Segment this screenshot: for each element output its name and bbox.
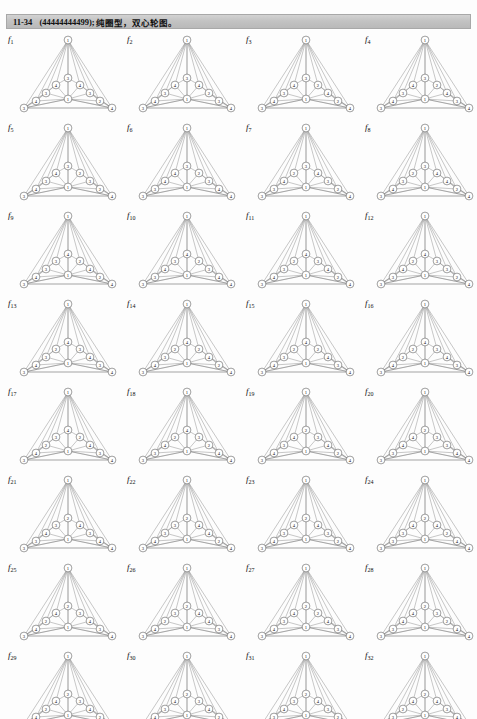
figure-cell-f15: f1514223443134 — [238, 294, 357, 382]
wheel-graph-f31: 12344332134 — [258, 647, 354, 719]
wheel-graph-f30: 12433442134 — [139, 647, 235, 719]
wheel-graph-f7: 13244332134 — [258, 119, 354, 205]
figure-label-f20: f20 — [365, 386, 374, 396]
figure-cell-f3: f313423442134 — [238, 30, 357, 118]
figure-cell-f13: f1314233443134 — [0, 294, 119, 382]
figure-cell-f12: f1214234332134 — [357, 206, 476, 294]
wheel-graph-f24: 12443234134 — [377, 471, 473, 557]
wheel-graph-f3: 13423442134 — [258, 31, 354, 117]
figure-cell-f29: f2912432442134 — [0, 646, 119, 719]
wheel-graph-f28: 12434234134 — [377, 559, 473, 645]
wheel-graph-f27: 12423443134 — [258, 559, 354, 645]
figure-label-f30: f30 — [127, 650, 136, 660]
figure-cell-f6: f613424334134 — [119, 118, 238, 206]
figure-cell-f19: f1912433442134 — [238, 382, 357, 470]
figure-label-f9: f9 — [8, 210, 14, 220]
section-description: 纯圈型，双心轮图。 — [96, 16, 177, 28]
figure-cell-f27: f2712423443134 — [238, 558, 357, 646]
figure-label-f25: f25 — [8, 562, 17, 572]
figure-label-f10: f10 — [127, 210, 136, 220]
wheel-graph-f11: 14233442134 — [258, 207, 354, 293]
figure-cell-f7: f713244332134 — [238, 118, 357, 206]
figure-label-f7: f7 — [246, 122, 252, 132]
wheel-graph-f15: 14223443134 — [258, 295, 354, 381]
figure-cell-f20: f2012434334134 — [357, 382, 476, 470]
wheel-graph-f10: 14324334134 — [139, 207, 235, 293]
wheel-graph-f17: 14322443134 — [20, 383, 116, 469]
section-header-bar: 11-34 (44444444499); 纯圈型，双心轮图。 — [6, 14, 471, 29]
wheel-graph-f32: 12442334134 — [377, 647, 473, 719]
figure-label-f28: f28 — [365, 562, 374, 572]
figure-label-f8: f8 — [365, 122, 371, 132]
wheel-graph-f22: 12343442134 — [139, 471, 235, 557]
section-code: (44444444499); — [39, 17, 94, 27]
wheel-graph-f1: 13443342134 — [20, 31, 116, 117]
figure-label-f29: f29 — [8, 650, 17, 660]
figure-cell-f1: f113443342134 — [0, 30, 119, 118]
wheel-graph-f5: 13423342134 — [20, 119, 116, 205]
figure-cell-f31: f3112344332134 — [238, 646, 357, 719]
figure-cell-f4: f413423443134 — [357, 30, 476, 118]
figure-label-f19: f19 — [246, 386, 255, 396]
figure-cell-f30: f3012433442134 — [119, 646, 238, 719]
wheel-graph-f4: 13423443134 — [377, 31, 473, 117]
figure-label-f3: f3 — [246, 34, 252, 44]
figure-cell-f5: f513423342134 — [0, 118, 119, 206]
wheel-graph-f2: 13443243134 — [139, 31, 235, 117]
wheel-graph-f14: 14223442134 — [139, 295, 235, 381]
figure-label-f24: f24 — [365, 474, 374, 484]
figure-cell-f10: f1014324334134 — [119, 206, 238, 294]
figure-cell-f17: f1714322443134 — [0, 382, 119, 470]
figure-label-f23: f23 — [246, 474, 255, 484]
figure-cell-f21: f2112344334134 — [0, 470, 119, 558]
figure-label-f2: f2 — [127, 34, 133, 44]
wheel-graph-f9: 14323442134 — [20, 207, 116, 293]
figure-cell-f25: f2512432443134 — [0, 558, 119, 646]
wheel-graph-f25: 12432443134 — [20, 559, 116, 645]
figure-label-f12: f12 — [365, 210, 374, 220]
figure-cell-f8: f813243442134 — [357, 118, 476, 206]
figure-label-f26: f26 — [127, 562, 136, 572]
figure-label-f18: f18 — [127, 386, 136, 396]
figure-cell-f18: f1814234234134 — [119, 382, 238, 470]
figure-label-f6: f6 — [127, 122, 133, 132]
figure-label-f17: f17 — [8, 386, 17, 396]
wheel-graph-f12: 14234332134 — [377, 207, 473, 293]
figure-label-f4: f4 — [365, 34, 371, 44]
figure-cell-f2: f213443243134 — [119, 30, 238, 118]
figure-label-f13: f13 — [8, 298, 17, 308]
wheel-graph-f18: 14234234134 — [139, 383, 235, 469]
figure-label-f15: f15 — [246, 298, 255, 308]
wheel-graph-f13: 14233443134 — [20, 295, 116, 381]
figure-grid: f113443342134f213443243134f313423442134f… — [0, 30, 477, 719]
figure-label-f31: f31 — [246, 650, 255, 660]
figure-cell-f26: f2612342443134 — [119, 558, 238, 646]
book-page: 11-34 (44444444499); 纯圈型，双心轮图。 f11344334… — [0, 0, 477, 719]
wheel-graph-f26: 12342443134 — [139, 559, 235, 645]
figure-cell-f16: f1614232443134 — [357, 294, 476, 382]
wheel-graph-f23: 12443342134 — [258, 471, 354, 557]
wheel-graph-f29: 12432442134 — [20, 647, 116, 719]
figure-label-f32: f32 — [365, 650, 374, 660]
figure-label-f22: f22 — [127, 474, 136, 484]
figure-label-f14: f14 — [127, 298, 136, 308]
wheel-graph-f21: 12344334134 — [20, 471, 116, 557]
section-number: 11-34 — [13, 17, 32, 27]
wheel-graph-f19: 12433442134 — [258, 383, 354, 469]
figure-label-f16: f16 — [365, 298, 374, 308]
figure-label-f1: f1 — [8, 34, 14, 44]
wheel-graph-f20: 12434334134 — [377, 383, 473, 469]
figure-cell-f32: f3212442334134 — [357, 646, 476, 719]
wheel-graph-f16: 14232443134 — [377, 295, 473, 381]
figure-cell-f24: f2412443234134 — [357, 470, 476, 558]
figure-label-f11: f11 — [246, 210, 254, 220]
figure-cell-f14: f1414223442134 — [119, 294, 238, 382]
figure-label-f27: f27 — [246, 562, 255, 572]
figure-cell-f28: f2812434234134 — [357, 558, 476, 646]
wheel-graph-f6: 13424334134 — [139, 119, 235, 205]
figure-label-f21: f21 — [8, 474, 17, 484]
figure-label-f5: f5 — [8, 122, 14, 132]
figure-cell-f11: f1114233442134 — [238, 206, 357, 294]
wheel-graph-f8: 13243442134 — [377, 119, 473, 205]
figure-cell-f23: f2312443342134 — [238, 470, 357, 558]
